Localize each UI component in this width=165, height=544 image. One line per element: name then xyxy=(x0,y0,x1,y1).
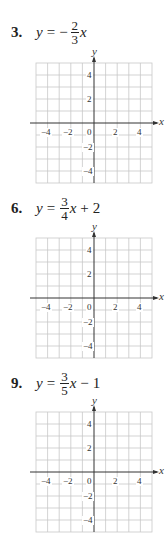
y-tick-label: 4 xyxy=(86,420,93,429)
coordinate-grids xyxy=(0,0,165,544)
x-tick-label: 0 xyxy=(86,128,93,137)
x-axis-label: x xyxy=(158,117,165,126)
y-tick-label: 4 xyxy=(86,71,93,80)
x-tick-label: −2 xyxy=(62,477,74,486)
y-tick-label: −4 xyxy=(82,516,94,525)
x-tick-label: 4 xyxy=(136,303,143,312)
y-tick-label: 2 xyxy=(86,270,93,279)
x-tick-label: 0 xyxy=(86,303,93,312)
y-axis-label: y xyxy=(91,47,98,56)
x-tick-label: −4 xyxy=(40,477,52,486)
grid-problem-9[interactable] xyxy=(30,405,159,532)
y-tick-label: −4 xyxy=(82,167,94,176)
x-tick-label: 2 xyxy=(112,128,119,137)
y-axis-label: y xyxy=(91,396,98,405)
x-tick-label: 2 xyxy=(112,477,119,486)
y-tick-label: −2 xyxy=(82,143,94,152)
x-tick-label: −4 xyxy=(40,128,52,137)
y-tick-label: 2 xyxy=(86,444,93,453)
x-axis-label: x xyxy=(158,292,165,301)
x-tick-label: −4 xyxy=(40,303,52,312)
y-tick-label: 2 xyxy=(86,95,93,104)
x-tick-label: 4 xyxy=(136,477,143,486)
grid-problem-6[interactable] xyxy=(30,231,159,358)
x-tick-label: 0 xyxy=(86,477,93,486)
y-tick-label: −2 xyxy=(82,492,94,501)
grid-problem-3[interactable] xyxy=(30,56,159,183)
y-tick-label: −4 xyxy=(82,342,94,351)
x-tick-label: −2 xyxy=(62,303,74,312)
x-tick-label: −2 xyxy=(62,128,74,137)
y-tick-label: −2 xyxy=(82,318,94,327)
y-axis-label: y xyxy=(91,222,98,231)
x-axis-label: x xyxy=(158,466,165,475)
x-tick-label: 4 xyxy=(136,128,143,137)
x-tick-label: 2 xyxy=(112,303,119,312)
y-tick-label: 4 xyxy=(86,246,93,255)
